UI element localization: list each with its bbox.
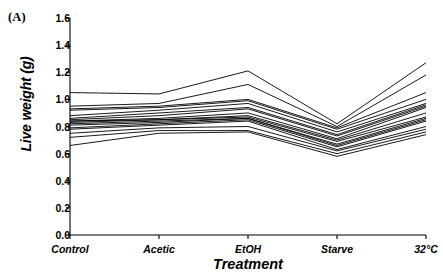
x-tick-label-starve: Starve — [292, 243, 382, 255]
x-tick-label-etoh: EtOH — [203, 243, 293, 255]
x-tick-label-acetic: Acetic — [114, 243, 204, 255]
x-tick-label-control: Control — [25, 243, 115, 255]
x-tick-label-32-c: 32°C — [381, 243, 443, 255]
